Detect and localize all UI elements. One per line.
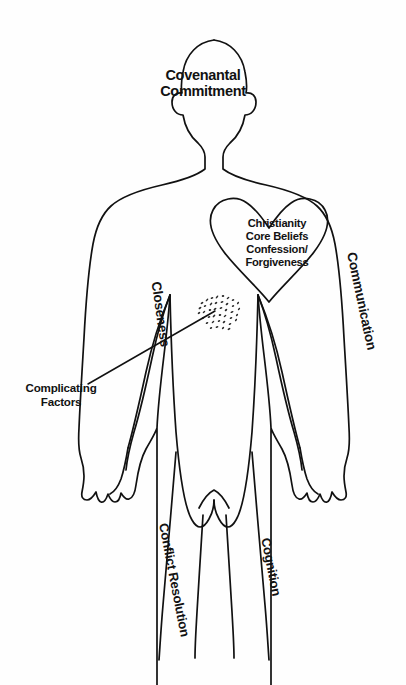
left-leg-inner-line — [195, 515, 203, 658]
label-complicating-factors: Complicating Factors — [2, 381, 120, 408]
left-hand-thumb — [110, 448, 128, 494]
right-hand-thumb — [300, 448, 318, 494]
body-outline — [79, 40, 350, 685]
human-figure-diagram — [0, 0, 406, 685]
label-heart-core-beliefs: Christianity Core Beliefs Confession/ Fo… — [225, 217, 329, 269]
label-covenantal-commitment: Covenantal Commitment — [143, 67, 263, 99]
complicating-factors-speckles — [197, 295, 240, 331]
right-leg-inner-line — [226, 515, 234, 658]
torso-hip-line-right — [214, 295, 258, 527]
diagram-page: Covenantal Commitment Christianity Core … — [0, 0, 406, 685]
body-silhouette-path — [79, 40, 214, 685]
callout-leader-line — [88, 311, 215, 384]
torso-hip-line — [170, 295, 214, 527]
